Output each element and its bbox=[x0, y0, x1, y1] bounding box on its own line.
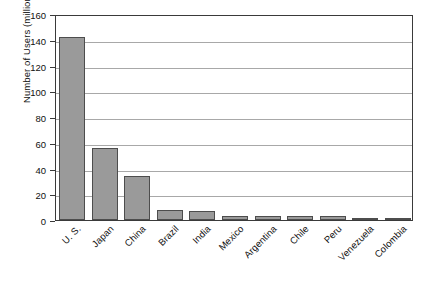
x-tick-label: Argentina bbox=[241, 223, 278, 260]
x-axis: U. S.JapanChinaBrazilIndiaMexicoArgentin… bbox=[55, 223, 413, 281]
bar bbox=[124, 176, 150, 220]
bar-chart-figure: Number of Users (millions) 0204060801001… bbox=[0, 0, 428, 281]
x-tick-label: Mexico bbox=[216, 223, 245, 252]
x-tick-label: Peru bbox=[321, 223, 343, 245]
bar bbox=[320, 216, 346, 220]
x-tick-label: Japan bbox=[89, 223, 115, 249]
y-tick-label: 60 bbox=[35, 138, 46, 149]
bar bbox=[287, 216, 313, 220]
y-tick-label: 100 bbox=[30, 87, 46, 98]
plot-area bbox=[55, 15, 413, 221]
y-tick-label: 140 bbox=[30, 35, 46, 46]
x-tick-label: Brazil bbox=[156, 223, 181, 248]
bar bbox=[92, 148, 118, 220]
y-axis: 020406080100120140160 bbox=[0, 15, 55, 221]
y-tick-label: 80 bbox=[35, 113, 46, 124]
y-tick-mark bbox=[50, 221, 55, 222]
x-tick-label: U. S. bbox=[60, 223, 83, 246]
y-tick-label: 0 bbox=[41, 216, 46, 227]
y-tick-label: 160 bbox=[30, 10, 46, 21]
y-tick-label: 40 bbox=[35, 164, 46, 175]
bar bbox=[222, 216, 248, 220]
bar bbox=[157, 210, 183, 220]
x-tick-label: China bbox=[122, 223, 148, 249]
bar bbox=[189, 211, 215, 220]
x-tick-label: Colombia bbox=[372, 223, 409, 260]
x-tick-label: India bbox=[191, 223, 214, 246]
bar bbox=[352, 218, 378, 220]
bars-layer bbox=[56, 16, 412, 220]
x-tick-label: Chile bbox=[287, 223, 310, 246]
bar bbox=[59, 37, 85, 220]
bar bbox=[385, 218, 411, 220]
y-tick-label: 20 bbox=[35, 190, 46, 201]
y-tick-label: 120 bbox=[30, 61, 46, 72]
bar bbox=[255, 216, 281, 220]
